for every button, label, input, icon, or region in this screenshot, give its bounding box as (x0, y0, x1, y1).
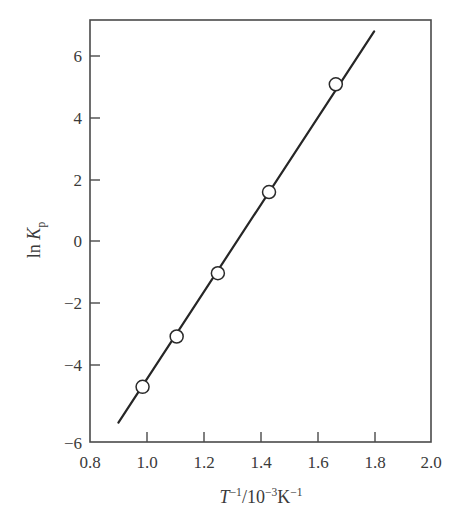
x-axis-title-unit-sup: −1 (290, 486, 302, 498)
y-tick-label-0: 0 (74, 232, 83, 251)
x-axis-title-exp: −3 (265, 486, 277, 498)
y-axis-title: ln Kp (24, 222, 48, 259)
y-axis-title-prefix: ln (24, 240, 44, 259)
y-tick-label-2: 2 (74, 171, 83, 190)
data-point (136, 380, 149, 393)
x-tick-label-1p2: 1.2 (193, 453, 214, 472)
y-axis-title-var: K (24, 227, 44, 241)
y-tick-label-6: 6 (74, 47, 83, 66)
x-tick-label-1p0: 1.0 (136, 453, 157, 472)
data-point (329, 78, 342, 91)
data-point (263, 186, 276, 199)
plot-frame (90, 20, 431, 442)
y-axis-ticks (90, 56, 100, 365)
chart-figure: 6 4 2 0 −2 −4 −6 0.8 1.0 1.2 1.4 1.6 1.8… (0, 0, 459, 525)
x-tick-label-1p4: 1.4 (250, 453, 272, 472)
x-axis-title-separator: /10 (242, 487, 265, 507)
x-tick-label-1p6: 1.6 (307, 453, 328, 472)
data-point (170, 330, 183, 343)
x-axis-tick-labels: 0.8 1.0 1.2 1.4 1.6 1.8 2.0 (79, 453, 441, 472)
y-tick-label-neg2: −2 (64, 294, 82, 313)
data-point (211, 267, 224, 280)
x-tick-label-0p8: 0.8 (79, 453, 100, 472)
y-axis-title-subscript: p (35, 222, 48, 228)
x-tick-label-1p8: 1.8 (364, 453, 385, 472)
x-axis-title-unit: K (277, 487, 290, 507)
y-tick-label-neg6: −6 (64, 434, 82, 453)
y-axis-tick-labels: 6 4 2 0 −2 −4 −6 (64, 47, 83, 453)
x-axis-title-var-sup: −1 (230, 486, 242, 498)
x-axis-ticks (147, 432, 375, 442)
y-tick-label-4: 4 (74, 109, 83, 128)
x-tick-label-2p0: 2.0 (420, 453, 441, 472)
plot-area: 6 4 2 0 −2 −4 −6 0.8 1.0 1.2 1.4 1.6 1.8… (0, 0, 459, 525)
x-axis-title: T−1/10−3K−1 (220, 486, 303, 507)
y-tick-label-neg4: −4 (64, 356, 83, 375)
data-point-group (136, 78, 342, 394)
